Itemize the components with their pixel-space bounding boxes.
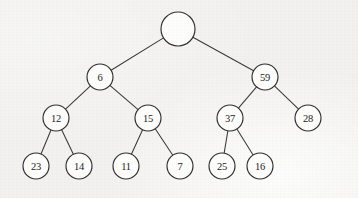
tree-edge — [155, 129, 173, 155]
tree-edge — [237, 129, 253, 155]
tree-node-label: 23 — [31, 161, 41, 172]
tree-node-label: 6 — [97, 72, 102, 83]
tree-node-label: 12 — [51, 113, 61, 124]
tree-node-label: 37 — [225, 113, 235, 124]
tree-node[interactable]: 6 — [87, 64, 113, 90]
tree-edge — [66, 86, 91, 109]
tree-edge — [193, 37, 254, 71]
tree-node[interactable]: 28 — [295, 105, 321, 131]
tree-node[interactable]: 59 — [252, 64, 278, 90]
tree-edge — [41, 130, 51, 154]
tree-node-label: 14 — [74, 161, 85, 172]
binary-tree-canvas: 6591215372823141172516 — [0, 0, 358, 198]
tree-node-label: 16 — [255, 161, 265, 172]
tree-node-label: 25 — [217, 161, 227, 172]
tree-node[interactable]: 16 — [247, 153, 273, 179]
tree-node-circle — [161, 12, 195, 46]
tree-node[interactable]: 15 — [135, 105, 161, 131]
tree-node-label: 15 — [143, 113, 153, 124]
tree-node[interactable]: 14 — [66, 153, 92, 179]
tree-node[interactable]: 37 — [217, 105, 243, 131]
tree-edge — [131, 130, 142, 154]
tree-node-label: 59 — [260, 72, 270, 83]
tree-edge — [62, 130, 74, 155]
tree-diagram-figure: 6591215372823141172516 — [0, 0, 358, 198]
tree-node[interactable]: 25 — [209, 153, 235, 179]
tree-node[interactable] — [161, 12, 195, 46]
tree-node[interactable]: 11 — [113, 153, 139, 179]
tree-node[interactable]: 23 — [23, 153, 49, 179]
tree-edge — [274, 86, 298, 109]
tree-node-label: 28 — [303, 113, 313, 124]
tree-node[interactable]: 12 — [43, 105, 69, 131]
tree-edge — [224, 131, 228, 153]
edge-layer — [41, 37, 299, 155]
tree-edge — [238, 87, 256, 108]
tree-edge — [111, 38, 163, 70]
tree-node[interactable]: 7 — [167, 153, 193, 179]
tree-node-label: 7 — [177, 161, 182, 172]
tree-edge — [110, 85, 138, 109]
tree-node-label: 11 — [121, 161, 131, 172]
